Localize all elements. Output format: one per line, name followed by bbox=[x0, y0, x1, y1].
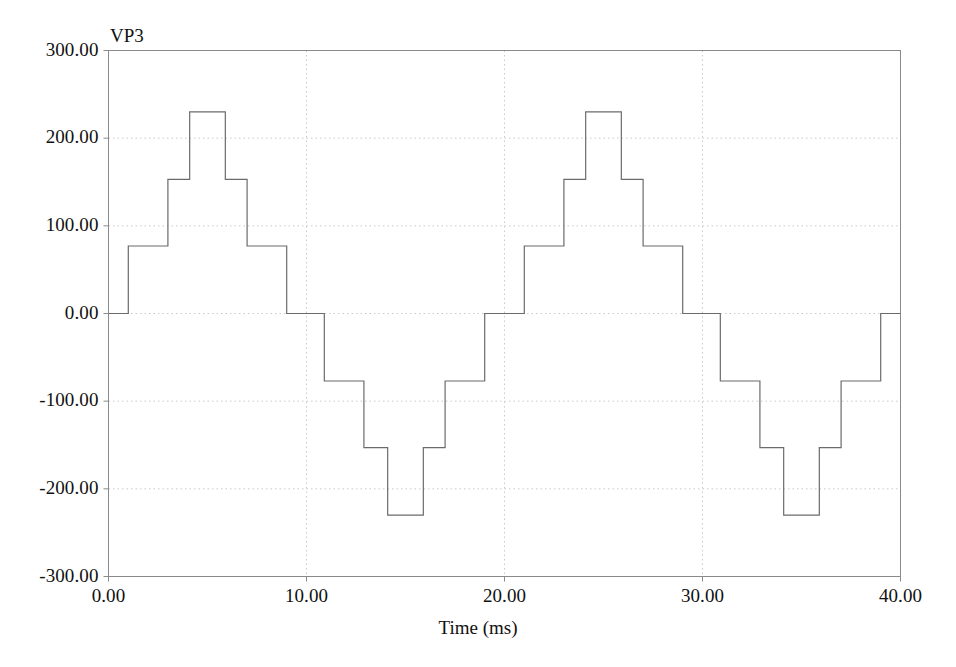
series-label-vp3: VP3 bbox=[110, 25, 144, 47]
y-axis-tick-label: 300.00 bbox=[0, 39, 99, 61]
x-axis-tick-label: 40.00 bbox=[841, 585, 956, 607]
x-axis-tick-label: 0.00 bbox=[49, 585, 169, 607]
y-axis-tick-label: 100.00 bbox=[0, 214, 99, 236]
x-axis-title: Time (ms) bbox=[0, 617, 956, 639]
y-axis-tick-label: 200.00 bbox=[0, 126, 99, 148]
y-axis-tick-label: -100.00 bbox=[0, 389, 99, 411]
x-axis-tick-label: 20.00 bbox=[445, 585, 565, 607]
chart-container: VP3 300.00200.00100.000.00-100.00-200.00… bbox=[0, 0, 956, 667]
y-axis-tick-label: 0.00 bbox=[0, 302, 99, 324]
chart-plot-area bbox=[0, 0, 956, 667]
x-axis-tick-label: 30.00 bbox=[643, 585, 763, 607]
axis-tickmarks bbox=[104, 51, 901, 582]
y-axis-tick-label: -200.00 bbox=[0, 477, 99, 499]
x-axis-tick-label: 10.00 bbox=[247, 585, 367, 607]
y-axis-tick-label: -300.00 bbox=[0, 565, 99, 587]
